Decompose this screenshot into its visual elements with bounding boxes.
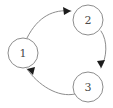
edge-2-to-3-arrowhead-icon (97, 60, 105, 68)
edge-3-to-1-path (27, 69, 75, 95)
node-1[interactable]: 1 (8, 38, 38, 68)
edge-1-to-2[interactable] (27, 7, 71, 38)
node-3[interactable]: 3 (73, 72, 103, 102)
node-1-label: 1 (20, 47, 27, 60)
edge-1-to-2-path (27, 11, 71, 38)
nodes-group: 1 2 3 (8, 5, 103, 102)
diagram-canvas: 1 2 3 (0, 0, 113, 108)
edge-2-to-3[interactable] (97, 31, 106, 68)
edge-1-to-2-arrowhead-icon (63, 7, 71, 15)
directed-graph: 1 2 3 (0, 0, 113, 108)
node-3-label: 3 (85, 81, 92, 94)
node-2-label: 2 (85, 14, 92, 27)
edge-3-to-1[interactable] (27, 67, 75, 95)
node-2[interactable]: 2 (73, 5, 103, 35)
